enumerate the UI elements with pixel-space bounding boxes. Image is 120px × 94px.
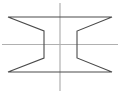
technical-drawing: [0, 0, 120, 94]
drawing-canvas: [0, 0, 120, 94]
